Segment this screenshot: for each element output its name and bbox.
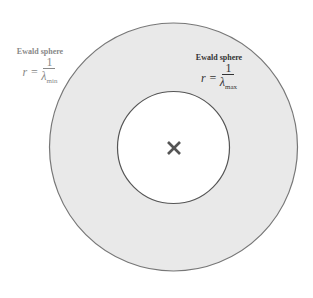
label-min-lhs: r = <box>23 65 39 80</box>
ewald-diagram <box>0 0 313 298</box>
label-max-formula: r = 1 λmax <box>183 62 255 94</box>
label-min-numerator: 1 <box>43 56 55 69</box>
label-max-subscript: max <box>225 83 237 91</box>
label-max-title: Ewald sphere <box>183 53 255 62</box>
label-max-numerator: 1 <box>222 62 234 75</box>
label-min-subscript: min <box>47 77 58 85</box>
label-max-lhs: r = <box>201 71 217 86</box>
label-max: Ewald sphere r = 1 λmax <box>183 53 255 94</box>
label-min: Ewald sphere r = 1 λmin <box>4 47 76 88</box>
label-min-title: Ewald sphere <box>4 47 76 56</box>
label-min-formula: r = 1 λmin <box>4 56 76 88</box>
